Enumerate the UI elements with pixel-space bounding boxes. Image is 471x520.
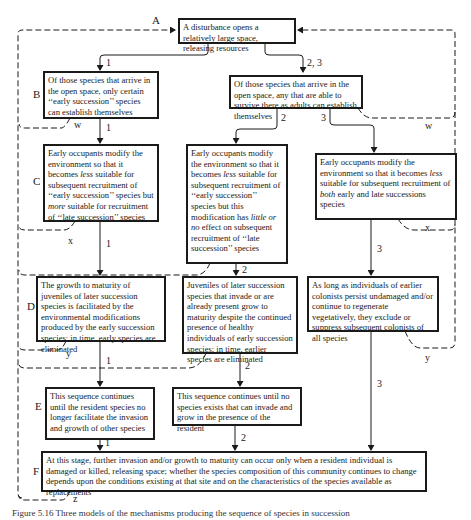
path-label-3-bc: 3	[321, 112, 326, 123]
path-label-2-bc: 2	[281, 112, 286, 123]
path-label-1-bc: 1	[106, 122, 111, 133]
path-label-3-df: 3	[377, 378, 382, 389]
box-d-suppression: As long as individuals of earlier coloni…	[307, 276, 439, 332]
loop-label-x-right: x	[425, 222, 430, 233]
loop-label-x-left: x	[68, 235, 73, 246]
loop-label-w-right: w	[425, 120, 432, 131]
row-label-b: B	[33, 88, 40, 100]
box-e-tolerance-end: This sequence continues until no species…	[172, 387, 302, 426]
figure-caption: Figure 5.16 Three models of the mechanis…	[12, 508, 350, 518]
box-b-any-species: Of those species that arrive in the open…	[229, 75, 363, 109]
box-c-inhibition: Early occupants modify the environment s…	[315, 153, 457, 220]
loop-label-w-left: w	[74, 119, 81, 130]
box-e-facilitation-end: This sequence continues until the reside…	[45, 387, 155, 440]
box-d-facilitated-growth: The growth to maturity of juveniles of l…	[36, 276, 166, 342]
path-label-3-cd: 3	[377, 243, 382, 254]
row-label-c: C	[33, 175, 40, 187]
row-label-a: A	[152, 14, 160, 26]
path-label-1-ab: 1	[106, 57, 111, 68]
loop-label-y-right: y	[425, 352, 430, 363]
box-d-tolerated-growth: Juveniles of later succession species th…	[182, 276, 298, 354]
box-f-final-stage: At this stage, further invasion and/or g…	[41, 451, 427, 492]
box-c-tolerance: Early occupants modify the environment s…	[186, 144, 288, 264]
path-label-2-cd: 2	[242, 264, 247, 275]
path-label-1-de: 1	[106, 355, 111, 366]
path-label-1-cd: 1	[106, 238, 111, 249]
row-label-e: E	[35, 400, 42, 412]
row-label-d: D	[27, 300, 35, 312]
box-c-facilitation: Early occupants modify the environment s…	[43, 144, 159, 222]
box-a-disturbance: A disturbance opens a relatively large s…	[178, 18, 296, 44]
box-b-early-succession-only: Of those species that arrive in the open…	[43, 71, 159, 119]
path-label-2-ef: 2	[241, 432, 246, 443]
row-label-f: F	[33, 465, 39, 477]
path-label-23: 2, 3	[307, 57, 322, 68]
